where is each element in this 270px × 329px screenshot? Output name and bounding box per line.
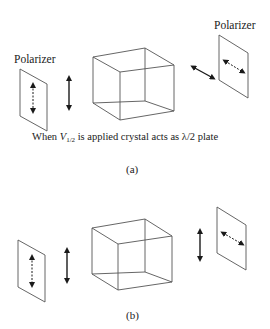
- diagonal-polarization-arrow-icon: [193, 67, 213, 78]
- caption-suffix: is applied crystal acts as λ/2 plate: [75, 131, 218, 142]
- panel-b-label: (b): [126, 310, 139, 321]
- right-polarizer-label: Polarizer: [214, 20, 256, 32]
- panel-a-caption: When V1/2 is applied crystal acts as λ/2…: [32, 132, 218, 144]
- polarizer-axis-arrow-icon: [225, 61, 243, 72]
- right-polarizer-plate-a: [219, 35, 248, 98]
- crystal-cube-a: [93, 48, 174, 120]
- caption-prefix: When: [32, 131, 60, 142]
- panel-a: [20, 35, 248, 131]
- right-polarizer-plate-b: [217, 207, 246, 270]
- panel-a-label: (a): [126, 164, 138, 175]
- polarizer-axis-arrow-icon: [223, 233, 242, 244]
- left-polarizer-label: Polarizer: [14, 54, 56, 66]
- voltage-subscript: 1/2: [66, 136, 75, 144]
- panel-b: [18, 207, 246, 302]
- crystal-cube-b: [92, 219, 172, 290]
